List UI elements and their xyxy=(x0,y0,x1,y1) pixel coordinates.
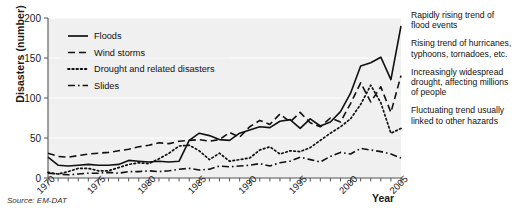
legend-label: Floods xyxy=(94,31,122,41)
legend-label: Slides xyxy=(94,81,119,91)
annotation-wind-storms: Rising trend of hurricanes, typhoons, to… xyxy=(411,38,515,58)
y-tick-label: 50 xyxy=(30,133,42,144)
legend-label: Drought and related disasters xyxy=(94,64,215,74)
y-tick-label: 150 xyxy=(24,53,41,64)
disasters-line-chart: Disasters (number) Year Source: EM-DAT 0… xyxy=(0,0,515,216)
annotation-slides: Fluctuating trend usually linked to othe… xyxy=(411,105,515,125)
annotation-floods: Rapidly rising trend of flood events xyxy=(411,10,515,30)
annotation-drought: Increasingly widespread drought, affecti… xyxy=(411,67,515,98)
y-tick-label: 100 xyxy=(24,93,41,104)
legend-label: Wind storms xyxy=(94,48,145,58)
annotation-list: Rapidly rising trend of flood events Ris… xyxy=(411,10,515,126)
y-tick-label: 200 xyxy=(24,13,41,24)
